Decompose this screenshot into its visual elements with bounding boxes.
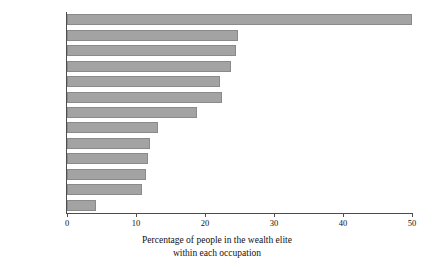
bar-medicine bbox=[67, 138, 150, 149]
bar-religion bbox=[67, 200, 96, 211]
x-axis-tick-label: 40 bbox=[323, 218, 363, 228]
bar-row: Law bbox=[67, 43, 412, 58]
bar-row: Sport bbox=[67, 89, 412, 104]
x-axis-title: Percentage of people in the wealth elite… bbox=[0, 234, 434, 260]
bar-science bbox=[67, 122, 158, 133]
x-axis-tick-label: 20 bbox=[185, 218, 225, 228]
bar-row: Media bbox=[67, 58, 412, 73]
x-axis-title-line2: within each occupation bbox=[0, 247, 434, 260]
bar-government bbox=[67, 169, 146, 180]
bar-row: Business bbox=[67, 12, 412, 27]
x-axis-tick bbox=[274, 213, 275, 217]
bar-row: Aristocracy bbox=[67, 27, 412, 42]
x-axis-tick-label: 30 bbox=[254, 218, 294, 228]
bar-creative bbox=[67, 107, 197, 118]
bar-row: Creative bbox=[67, 105, 412, 120]
bar-chart: BusinessAristocracyLawMediaSocietySportC… bbox=[0, 0, 434, 270]
x-axis-tick bbox=[67, 213, 68, 217]
bar-law bbox=[67, 45, 236, 56]
bar-aristocracy bbox=[67, 30, 238, 41]
plot-area: BusinessAristocracyLawMediaSocietySportC… bbox=[67, 12, 412, 213]
bar-row: Government bbox=[67, 167, 412, 182]
bar-sport bbox=[67, 92, 222, 103]
bar-row: Religion bbox=[67, 198, 412, 213]
x-axis-tick-label: 10 bbox=[116, 218, 156, 228]
bar-row: Society bbox=[67, 74, 412, 89]
bar-row: Science bbox=[67, 120, 412, 135]
x-axis-tick bbox=[205, 213, 206, 217]
bar-row: Education bbox=[67, 151, 412, 166]
x-axis-tick-label: 0 bbox=[47, 218, 87, 228]
bar-military bbox=[67, 184, 142, 195]
bar-society bbox=[67, 76, 220, 87]
bar-row: Medicine bbox=[67, 136, 412, 151]
bar-media bbox=[67, 61, 231, 72]
x-axis-tick bbox=[412, 213, 413, 217]
x-axis-tick bbox=[136, 213, 137, 217]
bar-education bbox=[67, 153, 148, 164]
x-axis-tick bbox=[343, 213, 344, 217]
x-axis-line bbox=[66, 213, 413, 214]
x-axis-tick-label: 50 bbox=[392, 218, 432, 228]
bar-business bbox=[67, 14, 412, 25]
bar-row: Military bbox=[67, 182, 412, 197]
x-axis-title-line1: Percentage of people in the wealth elite bbox=[0, 234, 434, 247]
